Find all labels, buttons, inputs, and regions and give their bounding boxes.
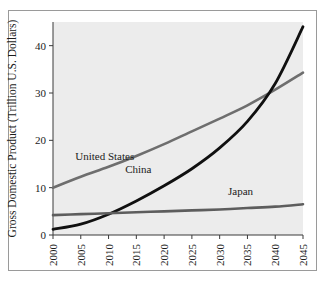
x-tick-label: 2010 <box>103 244 115 267</box>
y-tick-label: 20 <box>35 134 47 146</box>
x-tick-label: 2000 <box>47 244 59 267</box>
series-label-united-states: United States <box>75 150 134 162</box>
y-axis-title: Gross Domestic Product (Trillion U.S. Do… <box>6 19 19 237</box>
x-tick-label: 2025 <box>186 244 198 267</box>
y-tick-label: 0 <box>41 229 47 241</box>
x-tick-label: 2005 <box>75 244 87 267</box>
y-tick-label: 30 <box>35 87 47 99</box>
y-tick-label: 40 <box>35 40 47 52</box>
x-tick-label: 2035 <box>241 244 253 266</box>
x-tick-label: 2030 <box>214 244 226 267</box>
x-tick-label: 2040 <box>269 244 281 267</box>
figure-container: 0102030402000200520102015202020252030203… <box>0 0 327 281</box>
y-tick-label: 10 <box>35 182 47 194</box>
series-label-china: China <box>125 163 151 175</box>
gdp-line-chart: 0102030402000200520102015202020252030203… <box>0 0 327 281</box>
series-label-japan: Japan <box>228 185 254 197</box>
plot-area-background <box>53 22 303 235</box>
x-tick-label: 2045 <box>297 244 309 267</box>
x-tick-label: 2020 <box>158 244 170 267</box>
x-tick-label: 2015 <box>130 244 142 267</box>
